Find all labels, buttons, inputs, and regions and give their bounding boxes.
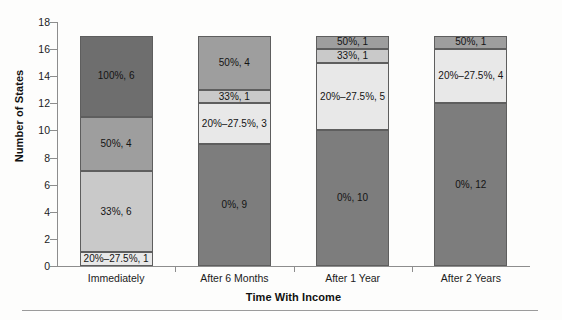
x-axis-category-label: After 2 Years [412,272,530,284]
y-axis-tick-label: 12 [22,98,50,108]
y-axis-tick [50,266,57,267]
bar-segment: 20%–27.5%, 3 [198,103,271,144]
bar-segment-label: 50%, 1 [337,37,368,47]
bar-segment: 0%, 12 [434,103,507,266]
y-axis-tick-label: 2 [22,234,50,244]
bar-segment: 50%, 4 [198,36,271,90]
bar-segment-label: 20%–27.5%, 4 [438,71,503,81]
bar-stack: 20%–27.5%, 133%, 650%, 4100%, 6 [80,36,153,266]
bar-segment: 0%, 10 [316,130,389,266]
y-axis-tick [50,185,57,186]
y-axis-tick-label: 6 [22,180,50,190]
x-axis-category-label: After 6 Months [175,272,293,284]
bar-segment: 0%, 9 [198,144,271,266]
bar-segment: 50%, 1 [434,36,507,50]
y-axis-tick-label-wrap: 2 [14,234,50,244]
bar-segment: 33%, 6 [80,171,153,252]
bar-segment: 20%–27.5%, 5 [316,63,389,131]
y-axis-tick-label: 10 [22,125,50,135]
bar-segment-label: 33%, 6 [101,207,132,217]
y-axis-tick [50,22,57,23]
x-axis-tick [175,266,176,272]
bar-segment-label: 50%, 4 [219,58,250,68]
x-axis-tick [294,266,295,272]
y-axis-tick [50,103,57,104]
x-axis-tick [412,266,413,272]
bar-segment-label: 0%, 9 [222,200,248,210]
y-axis-tick [50,158,57,159]
bar-segment-label: 50%, 1 [455,37,486,47]
bar-segment-label: 20%–27.5%, 1 [84,254,149,264]
y-axis-tick [50,130,57,131]
x-axis-category-label: After 1 Year [294,272,412,284]
bottom-rule [22,310,538,311]
y-axis-tick-label: 0 [22,261,50,271]
bar-segment-label: 33%, 1 [337,51,368,61]
bar-segment-label: 20%–27.5%, 5 [320,92,385,102]
y-axis-tick-label: 4 [22,207,50,217]
bar-segment: 33%, 1 [316,49,389,63]
x-axis-category-label: Immediately [57,272,175,284]
bar-segment-label: 20%–27.5%, 3 [202,119,267,129]
bar-segment: 20%–27.5%, 1 [80,252,153,266]
y-axis-tick [50,49,57,50]
bar-stack: 0%, 920%–27.5%, 333%, 150%, 4 [198,36,271,266]
y-axis-tick-label-wrap: 18 [14,17,50,27]
plot-area: 20%–27.5%, 133%, 650%, 4100%, 60%, 920%–… [57,22,530,266]
bar-segment-label: 33%, 1 [219,92,250,102]
bar-stack: 0%, 1020%–27.5%, 533%, 150%, 1 [316,36,389,266]
bar-segment-label: 50%, 4 [101,139,132,149]
bar-segment-label: 0%, 10 [337,193,368,203]
y-axis-tick [50,212,57,213]
x-axis-title: Time With Income [57,291,530,303]
bar-segment-label: 100%, 6 [98,71,135,81]
y-axis-tick-label: 14 [22,71,50,81]
y-axis-tick-label: 16 [22,44,50,54]
y-axis-tick-label-wrap: 4 [14,207,50,217]
bar-segment-label: 0%, 12 [455,180,486,190]
bar-segment: 50%, 1 [316,36,389,50]
bar-segment: 33%, 1 [198,90,271,104]
y-axis-tick [50,76,57,77]
bar-segment: 100%, 6 [80,36,153,117]
y-axis-title: Number of States [13,41,25,191]
y-axis-tick [50,239,57,240]
bar-stack: 0%, 1220%–27.5%, 450%, 1 [434,36,507,266]
y-axis-tick-label: 8 [22,153,50,163]
y-axis-tick-label-wrap: 0 [14,261,50,271]
chart-figure: 024681012141618 Number of States 20%–27.… [0,0,562,320]
bar-segment: 20%–27.5%, 4 [434,49,507,103]
bar-segment: 50%, 4 [80,117,153,171]
y-axis-tick-label: 18 [22,17,50,27]
